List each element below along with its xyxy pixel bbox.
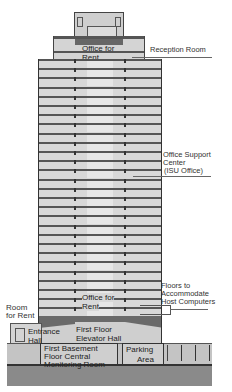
label-elevator-2: Elevator Hall xyxy=(76,334,121,343)
leader-host xyxy=(170,309,208,310)
tower-floor xyxy=(39,252,161,261)
tower-floor xyxy=(39,160,161,169)
tower-floor xyxy=(39,68,161,77)
label-entrance-1: Entrance xyxy=(28,327,60,336)
tower-floor xyxy=(39,179,161,188)
tower-floor xyxy=(39,169,161,178)
tower-floor xyxy=(39,280,161,289)
label-office-for-rent-low-2: Rent xyxy=(82,302,99,311)
basement-right-cells xyxy=(167,345,212,361)
tower-floor xyxy=(39,243,161,252)
tower-floor xyxy=(39,188,161,197)
host-floors-bracket xyxy=(140,305,171,315)
leader-reception xyxy=(132,57,212,58)
tower-floor xyxy=(39,96,161,105)
tower-floor xyxy=(39,151,161,160)
label-office-for-rent-low-1: Office for xyxy=(82,293,114,302)
label-elevator-1: First Floor xyxy=(76,325,112,334)
label-parking-1: Parking xyxy=(126,345,153,354)
tower-floor xyxy=(39,215,161,224)
tower-floor xyxy=(39,234,161,243)
tower-floor xyxy=(39,114,161,123)
tower-floor xyxy=(39,123,161,132)
basement xyxy=(7,343,212,386)
ground-right-wedge xyxy=(125,322,161,344)
tower-floor xyxy=(39,142,161,151)
tower-floor xyxy=(39,105,161,114)
label-basement-3: Monitoring Room xyxy=(44,360,105,369)
label-parking-2: Area xyxy=(137,355,154,364)
label-office-support-3: (ISU Office) xyxy=(164,167,203,175)
tower-floor xyxy=(39,197,161,206)
main-tower xyxy=(38,59,162,316)
tower-floor xyxy=(39,261,161,270)
label-office-for-rent-top-1: Office for xyxy=(82,44,114,53)
tower-floor xyxy=(39,59,161,68)
tower-floor xyxy=(39,206,161,215)
leader-office-support xyxy=(133,176,211,177)
label-room-for-rent-2: for Rent xyxy=(6,312,34,320)
tower-floor xyxy=(39,87,161,96)
tower-floor xyxy=(39,225,161,234)
entrance-door xyxy=(15,328,25,342)
tower-floor xyxy=(39,77,161,86)
penthouse-right-window xyxy=(115,17,121,27)
tower-floor xyxy=(39,133,161,142)
tower-floor xyxy=(39,271,161,280)
label-reception-room: Reception Room xyxy=(150,46,206,54)
penthouse-left-window xyxy=(77,17,83,27)
